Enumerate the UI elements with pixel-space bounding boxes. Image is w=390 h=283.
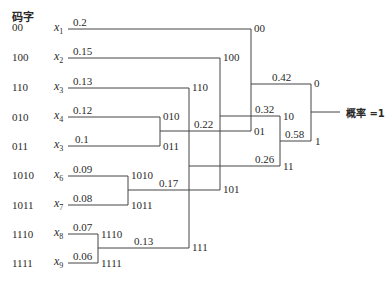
prob-x4: 0.12: [73, 104, 92, 116]
codeword-x6: 1010: [12, 169, 34, 181]
merge-prob-0.26: 0.26: [255, 153, 274, 165]
node-label-00: 00: [254, 22, 265, 34]
codeword-x2: 100: [12, 51, 29, 63]
codeword-x5: 011: [12, 140, 28, 152]
merge-prob-0.32: 0.32: [255, 103, 274, 115]
symbol-x5: x3: [54, 137, 63, 153]
merge-code-101: 101: [223, 183, 240, 195]
merge-prob-0.13: 0.13: [134, 235, 153, 247]
codeword-x1: 00: [12, 21, 23, 33]
prob-x3: 0.13: [73, 75, 92, 87]
merge-prob-0.42: 0.42: [272, 71, 291, 83]
symbol-x3: x3: [54, 79, 63, 95]
symbol-x8: x8: [54, 225, 63, 241]
codeword-x9: 1111: [12, 257, 33, 269]
prob-x8: 0.07: [73, 221, 92, 233]
node-label-1111: 1111: [101, 257, 122, 269]
symbol-x7: x7: [54, 196, 63, 212]
merge-code-1: 1: [315, 135, 321, 147]
merge-code-0: 0: [314, 77, 320, 89]
codeword-x3: 110: [12, 81, 28, 93]
merge-code-01: 01: [254, 125, 265, 137]
node-label-100: 100: [223, 51, 240, 63]
merge-prob-0.17: 0.17: [159, 177, 178, 189]
merge-code-111: 111: [192, 241, 208, 253]
node-label-1011: 1011: [131, 199, 153, 211]
merge-code-10: 10: [283, 110, 294, 122]
codeword-x4: 010: [12, 111, 29, 123]
node-label-011: 011: [163, 140, 179, 152]
merge-code-11: 11: [283, 160, 294, 172]
prob-x2: 0.15: [73, 45, 92, 57]
merge-prob-0.22: 0.22: [194, 118, 213, 130]
node-label-110: 110: [192, 81, 208, 93]
node-label-1010: 1010: [131, 169, 153, 181]
symbol-x1: x1: [54, 20, 63, 36]
root-probability-label: 概率 =1: [346, 105, 385, 120]
prob-x5: 0.1: [75, 133, 89, 145]
merge-prob-0.58: 0.58: [285, 128, 304, 140]
node-label-010: 010: [163, 110, 180, 122]
symbol-x4: x4: [54, 108, 63, 124]
symbol-x6: x6: [54, 167, 63, 183]
symbol-x9: x9: [54, 254, 63, 270]
node-label-1110: 1110: [101, 228, 122, 240]
prob-x9: 0.06: [73, 250, 92, 262]
prob-x1: 0.2: [73, 16, 87, 28]
prob-x7: 0.08: [73, 192, 92, 204]
codeword-x7: 1011: [12, 199, 34, 211]
prob-x6: 0.09: [73, 163, 92, 175]
codeword-x8: 1110: [12, 228, 33, 240]
symbol-x2: x2: [54, 49, 63, 65]
